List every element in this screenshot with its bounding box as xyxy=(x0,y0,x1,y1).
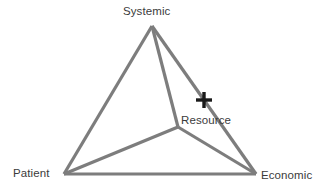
edge-economic-resource xyxy=(178,127,256,174)
edges-group xyxy=(64,26,256,174)
edge-systemic-resource xyxy=(152,26,178,127)
diagram-canvas: Systemic Patient Economic Resource xyxy=(0,0,324,191)
node-label-resource: Resource xyxy=(181,114,231,127)
edge-systemic-patient xyxy=(64,26,152,174)
vertex-label-systemic: Systemic xyxy=(123,5,170,18)
edge-patient-resource xyxy=(64,127,178,174)
triangle-diagram-graphic xyxy=(0,0,324,191)
vertex-label-patient: Patient xyxy=(13,167,50,180)
vertex-label-economic: Economic xyxy=(261,169,312,182)
